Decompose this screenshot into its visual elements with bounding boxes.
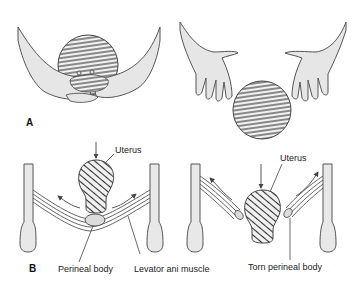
levator-ani-label: Levator ani muscle xyxy=(134,265,210,274)
panel-b-left-intact xyxy=(20,142,163,262)
diagram-canvas xyxy=(0,0,359,284)
uterus-label-left: Uterus xyxy=(115,146,142,155)
panel-a-right-hands-off xyxy=(180,22,346,139)
perineal-body-label: Perineal body xyxy=(58,265,113,274)
uterus-label-right: Uterus xyxy=(280,154,307,163)
torn-perineal-body-label: Torn perineal body xyxy=(248,263,322,272)
panel-b-right-torn xyxy=(187,164,336,260)
panel-a-left-hands-on xyxy=(18,27,160,102)
panel-label-b: B xyxy=(29,264,36,274)
perineum-diagram: A B Uterus Uterus Perineal body Levator … xyxy=(0,0,359,284)
panel-label-a: A xyxy=(26,118,33,128)
